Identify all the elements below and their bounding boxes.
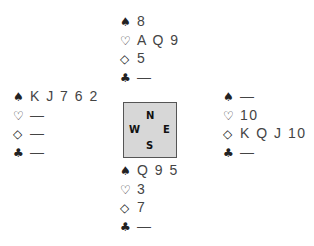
west-hand: ♠K J 7 6 2 ♡— ◇— ♣—	[13, 87, 99, 162]
east-spades: ♠—	[223, 87, 306, 106]
heart-icon: ♡	[120, 32, 137, 51]
club-icon: ♣	[223, 144, 240, 163]
east-hand: ♠— ♡10 ◇K Q J 10 ♣—	[223, 87, 306, 162]
compass-box: N W E S	[123, 102, 177, 158]
spade-icon: ♠	[13, 88, 30, 107]
compass-south: S	[146, 140, 153, 151]
south-hearts: ♡3	[120, 180, 179, 199]
diamond-icon: ◇	[13, 125, 30, 144]
south-clubs: ♣—	[120, 217, 179, 236]
north-hand: ♠8 ♡A Q 9 ◇5 ♣—	[120, 12, 180, 87]
compass-north: N	[146, 110, 154, 121]
diamond-icon: ◇	[120, 199, 137, 218]
north-diamonds: ◇5	[120, 49, 180, 68]
north-hearts: ♡A Q 9	[120, 31, 180, 50]
spade-icon: ♠	[223, 88, 240, 107]
west-diamonds: ◇—	[13, 124, 99, 143]
south-diamonds: ◇7	[120, 198, 179, 217]
club-icon: ♣	[120, 69, 137, 88]
spade-icon: ♠	[120, 162, 137, 181]
north-clubs: ♣—	[120, 68, 180, 87]
spade-icon: ♠	[120, 13, 137, 32]
heart-icon: ♡	[223, 107, 240, 126]
east-hearts: ♡10	[223, 106, 306, 125]
south-spades: ♠Q 9 5	[120, 161, 179, 180]
east-diamonds: ◇K Q J 10	[223, 124, 306, 143]
compass-east: E	[163, 124, 170, 135]
compass-west: W	[129, 124, 140, 135]
north-spades: ♠8	[120, 12, 180, 31]
south-hand: ♠Q 9 5 ♡3 ◇7 ♣—	[120, 161, 179, 236]
heart-icon: ♡	[120, 181, 137, 200]
west-spades: ♠K J 7 6 2	[13, 87, 99, 106]
east-clubs: ♣—	[223, 143, 306, 162]
west-hearts: ♡—	[13, 106, 99, 125]
heart-icon: ♡	[13, 107, 30, 126]
club-icon: ♣	[13, 144, 30, 163]
club-icon: ♣	[120, 218, 137, 237]
diamond-icon: ◇	[223, 125, 240, 144]
west-clubs: ♣—	[13, 143, 99, 162]
diamond-icon: ◇	[120, 50, 137, 69]
